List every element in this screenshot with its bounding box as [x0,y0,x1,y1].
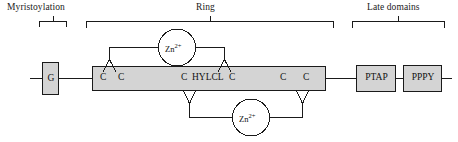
header-ring: Ring [196,2,215,12]
zn-bottom-charge: 2+ [248,112,255,119]
label-zn-bottom: Zn2+ [239,112,255,124]
figure-canvas: Myristoylation Ring Late domains G PTAP … [0,0,458,142]
label-zn-top: Zn2+ [165,42,181,54]
diagram-vector-layer [0,0,458,142]
bracket-ring [87,16,334,28]
residue-c1: C [100,72,106,82]
residue-c4: C [229,72,235,82]
residue-c6: C [303,72,309,82]
bracket-myristoylation [40,16,67,27]
label-domain-ptap: PTAP [357,72,396,82]
zn-top-charge: 2+ [174,42,181,49]
label-domain-g: G [42,73,60,83]
label-domain-pppy: PPPY [404,72,442,82]
residue-c5: C [280,72,286,82]
bracket-late-domains [353,16,445,28]
header-late-domains: Late domains [367,2,420,12]
residue-hylcl: HYLCL [192,72,224,82]
residue-c2: C [118,72,124,82]
header-myristoylation: Myristoylation [7,2,65,12]
residue-c3: C [181,72,187,82]
